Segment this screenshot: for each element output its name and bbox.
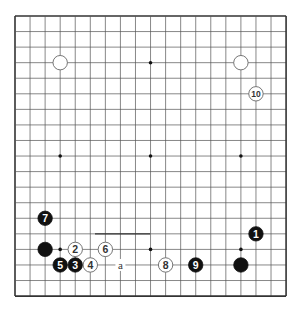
white-stone: 4 [83, 258, 97, 272]
board-markers: a [115, 259, 125, 271]
move-number-label: 1 [253, 228, 259, 240]
white-stone-icon [53, 55, 67, 69]
move-number-label: 2 [72, 243, 78, 255]
star-point [149, 248, 153, 252]
move-number-label: 5 [57, 259, 63, 271]
white-stone [53, 55, 67, 69]
move-number-label: 6 [102, 243, 108, 255]
black-stone [234, 258, 248, 272]
white-stone: 6 [98, 242, 112, 256]
black-stone-icon [234, 258, 248, 272]
star-point [149, 154, 153, 158]
black-stone: 7 [38, 211, 52, 225]
move-number-label: 3 [72, 259, 78, 271]
move-number-label: 8 [163, 259, 169, 271]
white-stone: 2 [68, 242, 82, 256]
star-point [58, 154, 62, 158]
black-stone-icon [38, 242, 52, 256]
move-number-label: 4 [87, 259, 93, 271]
star-point [58, 248, 62, 252]
black-stone [38, 242, 52, 256]
star-point [239, 248, 243, 252]
white-stone-icon [234, 55, 248, 69]
black-stone: 9 [189, 258, 203, 272]
move-number-label: 7 [42, 212, 48, 224]
black-stone: 3 [68, 258, 82, 272]
star-point [239, 154, 243, 158]
white-stone: 10 [249, 87, 263, 101]
star-point [149, 61, 153, 65]
point-marker-label: a [118, 259, 123, 271]
move-number-label: 9 [193, 259, 199, 271]
white-stone: 8 [158, 258, 172, 272]
go-board-diagram: a 10172653489 [0, 0, 299, 309]
white-stone [234, 55, 248, 69]
black-stone: 1 [249, 227, 263, 241]
black-stone: 5 [53, 258, 67, 272]
move-number-label: 10 [251, 89, 261, 99]
